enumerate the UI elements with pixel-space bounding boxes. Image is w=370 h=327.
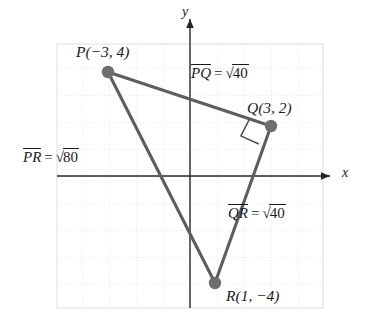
x-axis-arrowhead bbox=[321, 172, 330, 180]
point-label-r: R(1, −4) bbox=[226, 288, 280, 304]
vertex-dot-q bbox=[265, 120, 277, 132]
segment-label-qr-radical: √40 bbox=[262, 204, 285, 221]
segment-label-pr-overline: PR bbox=[23, 148, 41, 165]
segment-label-qr-equals: = bbox=[248, 205, 262, 221]
point-label-p: P(−3, 4) bbox=[76, 44, 130, 60]
segment-label-pr-radical: √80 bbox=[56, 148, 79, 165]
segment-label-pq-radicand: 40 bbox=[232, 64, 249, 81]
segment-label-pq: PQ=√40 bbox=[191, 64, 249, 81]
segment-label-pr: PR=√80 bbox=[23, 148, 79, 165]
point-label-q: Q(3, 2) bbox=[247, 100, 292, 116]
segment-label-qr-radicand: 40 bbox=[269, 204, 286, 221]
vertex-dot-r bbox=[209, 277, 221, 289]
segment-label-pq-equals: = bbox=[211, 65, 225, 81]
segment-label-qr: QR=√40 bbox=[228, 204, 286, 221]
segment-label-pq-overline: PQ bbox=[191, 64, 211, 81]
segment-label-pq-radical: √40 bbox=[225, 64, 248, 81]
segment-label-pr-radicand: 80 bbox=[63, 148, 80, 165]
y-axis-label: y bbox=[182, 5, 188, 19]
x-axis-label: x bbox=[342, 166, 348, 180]
y-axis-arrowhead bbox=[186, 19, 194, 28]
segment-label-qr-overline: QR bbox=[228, 204, 248, 221]
vertex-dot-p bbox=[102, 66, 114, 78]
segment-label-pr-equals: = bbox=[41, 149, 55, 165]
